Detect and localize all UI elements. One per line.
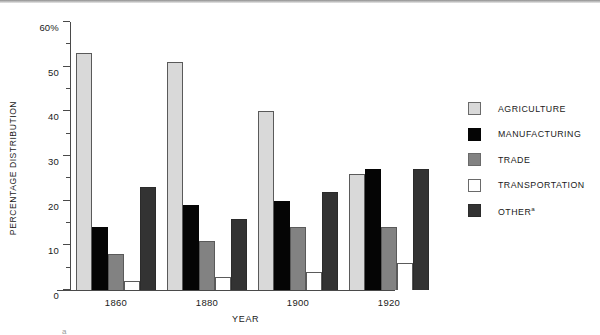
bar-1920-other (413, 169, 429, 290)
bar-1880-agriculture (167, 62, 183, 290)
y-tick-major (63, 289, 70, 290)
y-tick-major (63, 110, 70, 111)
bar-1920-trade (381, 227, 397, 290)
x-tick-label-1900: 1900 (287, 297, 309, 308)
bar-1880-other (231, 219, 247, 290)
bar-1900-transportation (306, 272, 322, 290)
y-axis-title: PERCENTAGE DISTRIBUTION (8, 100, 18, 234)
legend-item-other[interactable]: OTHERa (468, 198, 585, 224)
top-border-rule (0, 0, 600, 3)
x-axis-line (57, 290, 395, 291)
legend-label: TRADE (498, 155, 530, 165)
y-tick-minor (66, 177, 70, 178)
bar-group-1880 (167, 22, 247, 290)
y-tick-minor (66, 222, 70, 223)
legend-item-manufacturing[interactable]: MANUFACTURING (468, 122, 585, 148)
bar-1880-trade (199, 241, 215, 290)
footnote-marker: a (62, 327, 66, 335)
legend-swatch-icon (468, 179, 481, 192)
legend-label: AGRICULTURE (498, 104, 566, 114)
bar-1920-agriculture (349, 174, 365, 290)
legend-item-transportation[interactable]: TRANSPORTATION (468, 173, 585, 199)
bar-1860-trade (108, 254, 124, 290)
bar-group-1900 (258, 22, 338, 290)
bar-1860-manufacturing (92, 227, 108, 290)
bar-chart-figure: PERCENTAGE DISTRIBUTION 0102030405060% Y… (0, 0, 600, 335)
legend-swatch-icon (468, 102, 481, 115)
x-axis-title: YEAR (232, 314, 259, 324)
x-tick-label-1880: 1880 (196, 297, 218, 308)
bar-1880-transportation (215, 277, 231, 290)
bar-group-1860 (76, 22, 156, 290)
y-tick-minor (66, 43, 70, 44)
bar-1860-agriculture (76, 53, 92, 290)
y-tick-major (63, 66, 70, 67)
bar-1860-transportation (124, 281, 140, 290)
y-tick-major (63, 200, 70, 201)
legend-swatch-icon (468, 204, 481, 217)
bar-1920-manufacturing (365, 169, 381, 290)
legend-item-agriculture[interactable]: AGRICULTURE (468, 96, 585, 122)
legend-swatch-icon (468, 128, 481, 141)
x-tick-label-1860: 1860 (105, 297, 127, 308)
bar-1900-trade (290, 227, 306, 290)
bar-1900-other (322, 192, 338, 290)
y-tick-minor (66, 267, 70, 268)
legend-item-trade[interactable]: TRADE (468, 147, 585, 173)
y-tick-minor (66, 88, 70, 89)
y-tick-major (63, 244, 70, 245)
legend-label: OTHERa (498, 205, 535, 217)
chart-legend: AGRICULTUREMANUFACTURINGTRADETRANSPORTAT… (468, 96, 585, 224)
bar-1860-other (140, 187, 156, 290)
bar-1900-manufacturing (274, 201, 290, 290)
y-tick-major (63, 155, 70, 156)
legend-footnote-superscript: a (531, 205, 535, 212)
y-tick-minor (66, 133, 70, 134)
legend-label: TRANSPORTATION (498, 180, 585, 190)
bar-1920-transportation (397, 263, 413, 290)
bar-group-1920 (349, 22, 429, 290)
plot-area: 0102030405060% (70, 22, 395, 290)
legend-swatch-icon (468, 153, 481, 166)
bar-1880-manufacturing (183, 205, 199, 290)
bar-1900-agriculture (258, 111, 274, 290)
x-tick-label-1920: 1920 (378, 297, 400, 308)
legend-label: MANUFACTURING (498, 129, 581, 139)
y-tick-major (63, 21, 70, 22)
